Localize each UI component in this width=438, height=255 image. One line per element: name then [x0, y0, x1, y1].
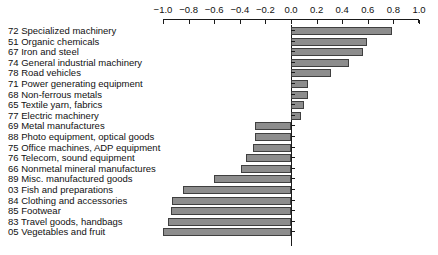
x-tick-mark [368, 20, 369, 24]
axis-row-tick [291, 231, 295, 232]
category-label: 68 Non-ferrous metals [8, 89, 102, 100]
x-tick-mark [214, 20, 215, 24]
axis-row-tick [291, 83, 295, 84]
category-label: 51 Organic chemicals [8, 36, 99, 47]
axis-row-tick [291, 168, 295, 169]
chart-bar-row: 84 Clothing and accessories [0, 196, 438, 207]
category-label: 67 Iron and steel [8, 46, 79, 57]
bar [291, 59, 349, 67]
x-tick-label: 0.0 [284, 4, 297, 15]
x-tick-label: 0.8 [387, 4, 400, 15]
axis-row-tick [291, 136, 295, 137]
x-tick-label: −0.6 [205, 4, 224, 15]
axis-row-tick [291, 221, 295, 222]
axis-row-tick [291, 147, 295, 148]
bar [291, 69, 331, 77]
category-label: 85 Footwear [8, 205, 61, 216]
axis-row-tick [291, 125, 295, 126]
x-tick-mark [240, 20, 241, 24]
x-tick-label: −0.8 [179, 4, 198, 15]
x-tick-label: 1.0 [412, 4, 425, 15]
axis-row-tick [291, 210, 295, 211]
chart-bar-row: 05 Vegetables and fruit [0, 227, 438, 238]
bar [291, 101, 304, 109]
bar [253, 144, 291, 152]
axis-row-tick [291, 72, 295, 73]
x-tick-label: −1.0 [154, 4, 173, 15]
category-label: 74 General industrial machinery [8, 57, 142, 68]
category-label: 88 Photo equipment, optical goods [8, 131, 154, 142]
bar [255, 133, 291, 141]
plot-area: 72 Specialized machinery51 Organic chemi… [0, 25, 438, 247]
x-tick-mark [265, 20, 266, 24]
category-label: 65 Textile yarn, fabrics [8, 99, 102, 110]
x-tick-label: 0.6 [361, 4, 374, 15]
category-label: 03 Fish and preparations [8, 184, 113, 195]
axis-row-tick [291, 30, 295, 31]
category-label: 83 Travel goods, handbags [8, 216, 123, 227]
bar [171, 207, 291, 215]
bar [255, 122, 291, 130]
bar-chart: −1.0−0.8−0.6−0.4−0.20.00.20.40.60.81.0 7… [0, 0, 438, 255]
bar [183, 186, 291, 194]
bar [291, 27, 392, 35]
x-tick-label: 0.4 [336, 4, 349, 15]
x-tick-mark [291, 20, 292, 24]
x-tick-mark [419, 20, 420, 24]
axis-row-tick [291, 115, 295, 116]
category-label: 76 Telecom, sound equipment [8, 152, 135, 163]
bar [291, 91, 308, 99]
x-axis-tick-labels: −1.0−0.8−0.6−0.4−0.20.00.20.40.60.81.0 [163, 4, 419, 16]
x-tick-label: 0.2 [310, 4, 323, 15]
bar [291, 38, 367, 46]
x-tick-mark [163, 20, 164, 24]
category-label: 71 Power generating equipment [8, 78, 143, 89]
bar [241, 165, 291, 173]
bar [246, 154, 291, 162]
axis-row-tick [291, 157, 295, 158]
bar [163, 228, 291, 236]
x-tick-label: −0.2 [256, 4, 275, 15]
category-label: 75 Office machines, ADP equipment [8, 142, 160, 153]
bar [214, 175, 291, 183]
bar [291, 112, 301, 120]
axis-row-tick [291, 189, 295, 190]
bar [291, 48, 363, 56]
bar [291, 80, 308, 88]
axis-row-tick [291, 200, 295, 201]
category-label: 77 Electric machinery [8, 110, 99, 121]
x-tick-mark [342, 20, 343, 24]
x-tick-mark [393, 20, 394, 24]
axis-row-tick [291, 41, 295, 42]
bar [168, 218, 291, 226]
category-label: 78 Road vehicles [8, 67, 81, 78]
axis-row-tick [291, 51, 295, 52]
axis-row-tick [291, 94, 295, 95]
axis-row-tick [291, 104, 295, 105]
category-label: 66 Nonmetal mineral manufactures [8, 163, 156, 174]
bar [172, 197, 291, 205]
axis-row-tick [291, 178, 295, 179]
category-label: 05 Vegetables and fruit [8, 226, 105, 237]
category-label: 84 Clothing and accessories [8, 195, 127, 206]
x-tick-label: −0.4 [230, 4, 249, 15]
category-label: 72 Specialized machinery [8, 25, 116, 36]
axis-row-tick [291, 62, 295, 63]
category-label: 89 Misc. manufactured goods [8, 173, 133, 184]
category-label: 69 Metal manufactures [8, 120, 105, 131]
x-tick-mark [317, 20, 318, 24]
x-tick-mark [189, 20, 190, 24]
